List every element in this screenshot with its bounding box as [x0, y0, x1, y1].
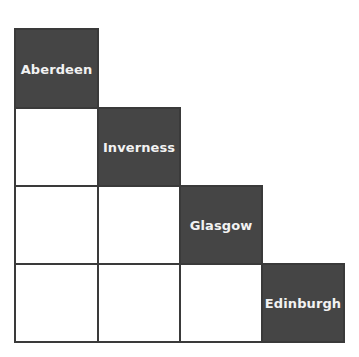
cell-edinburgh: Edinburgh — [261, 263, 345, 343]
label-aberdeen: Aberdeen — [16, 61, 97, 76]
cell-r3-c1 — [97, 263, 181, 343]
cell-r2-c1 — [97, 185, 181, 265]
label-inverness: Inverness — [99, 140, 179, 155]
cell-r3-c0 — [14, 263, 99, 343]
cell-aberdeen: Aberdeen — [14, 28, 99, 109]
cell-r2-c0 — [14, 185, 99, 265]
cell-r1-c0 — [14, 107, 99, 187]
label-edinburgh: Edinburgh — [263, 296, 343, 311]
label-glasgow: Glasgow — [181, 218, 261, 233]
cell-glasgow: Glasgow — [179, 185, 263, 265]
city-matrix: Aberdeen Inverness Glasgow Edinburgh — [14, 28, 345, 343]
cell-inverness: Inverness — [97, 107, 181, 187]
cell-r3-c2 — [179, 263, 263, 343]
